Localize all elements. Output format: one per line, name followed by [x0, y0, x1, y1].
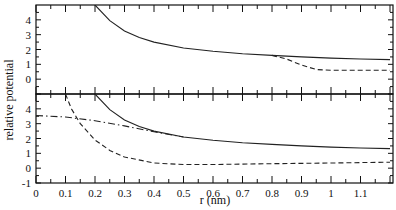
x-tick-label: 1.1 — [354, 187, 368, 199]
x-tick-label: 0.4 — [147, 187, 161, 199]
chart: 01234-10123400.10.20.30.40.50.60.70.80.9… — [0, 0, 396, 210]
y-axis-label: relative potential — [2, 59, 16, 141]
y-tick-label: 4 — [26, 14, 32, 26]
plot-frame — [36, 94, 393, 183]
x-tick-label: 0.2 — [88, 187, 102, 199]
x-tick-label: 0.9 — [295, 187, 309, 199]
y-tick-label: -1 — [22, 177, 31, 189]
x-tick-label: 0.8 — [265, 187, 279, 199]
x-tick-label: 0 — [33, 187, 39, 199]
plot-frame — [36, 5, 393, 94]
y-tick-label: 3 — [26, 118, 32, 130]
y-tick-label: 3 — [26, 29, 32, 41]
y-tick-label: 2 — [26, 133, 32, 145]
series-solid — [95, 94, 390, 149]
panel-bottom: -101234 — [22, 94, 393, 189]
y-tick-label: 2 — [26, 44, 32, 56]
x-tick-label: 1 — [328, 187, 334, 199]
series-solid — [95, 5, 390, 60]
x-tick-label: 0.5 — [177, 187, 191, 199]
y-tick-label: 1 — [26, 58, 32, 70]
x-axis-label: r (nm) — [200, 193, 230, 207]
x-tick-label: 0.1 — [59, 187, 73, 199]
series-dash-dot — [36, 116, 184, 138]
y-tick-label: 1 — [26, 147, 32, 159]
y-tick-label: 4 — [26, 103, 32, 115]
x-tick-label: 0.7 — [236, 187, 250, 199]
y-tick-label: 0 — [26, 162, 32, 174]
x-tick-label: 0.3 — [118, 187, 132, 199]
y-tick-label: 0 — [26, 73, 32, 85]
panel-top: 01234 — [26, 5, 394, 94]
series-dashed — [66, 94, 391, 165]
